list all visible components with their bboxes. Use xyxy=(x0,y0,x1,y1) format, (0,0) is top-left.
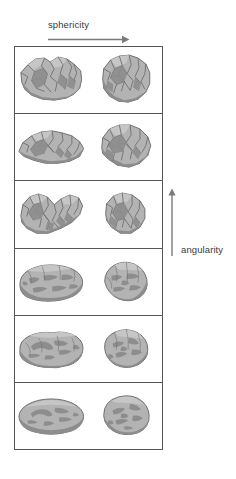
sub-angular-high-sphericity-grain xyxy=(89,181,163,247)
well-rounded-low-sphericity-grain xyxy=(15,383,89,449)
grain-row-very-angular xyxy=(15,47,162,114)
angularity-axis-label: angularity xyxy=(181,244,223,255)
grain-grid xyxy=(14,46,163,450)
very-angular-high-sphericity-grain xyxy=(89,47,163,113)
very-angular-low-sphericity-grain xyxy=(15,47,89,113)
grain-row-well-rounded xyxy=(15,383,162,449)
rounded-low-sphericity-grain xyxy=(15,316,89,382)
well-rounded-high-sphericity-grain xyxy=(89,383,163,449)
angular-high-sphericity-grain xyxy=(89,114,163,180)
angular-low-sphericity-grain xyxy=(15,114,89,180)
sphericity-axis-label: sphericity xyxy=(48,19,158,30)
right-arrow-icon xyxy=(48,35,130,44)
grain-row-angular xyxy=(15,114,162,181)
sub-rounded-high-sphericity-grain xyxy=(89,249,163,315)
grain-row-sub-rounded xyxy=(15,249,162,316)
sub-rounded-low-sphericity-grain xyxy=(15,249,89,315)
sub-angular-low-sphericity-grain xyxy=(15,181,89,247)
grain-row-sub-angular xyxy=(15,181,162,248)
grain-row-rounded xyxy=(15,316,162,383)
rounded-high-sphericity-grain xyxy=(89,316,163,382)
up-arrow-icon xyxy=(166,188,178,256)
roundness-sphericity-chart: sphericity angularity xyxy=(0,0,236,479)
